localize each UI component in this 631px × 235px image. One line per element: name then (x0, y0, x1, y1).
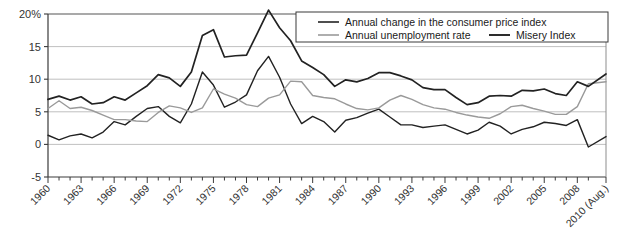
x-tick-label-2: 1966 (94, 182, 119, 207)
y-tick-label-20: 20% (19, 8, 41, 20)
x-tick-label-15: 2005 (524, 182, 549, 207)
y-tick-label-10: 10 (29, 73, 41, 85)
x-tick-label-14: 2002 (491, 182, 516, 207)
x-tick-label-12: 1996 (424, 182, 449, 207)
x-tick-label-8: 1984 (292, 182, 317, 207)
x-tick-label-0: 1960 (27, 182, 52, 207)
misery-index-chart: 20%151050-519601963196619691972197519781… (0, 0, 631, 235)
x-tick-label-10: 1990 (358, 182, 383, 207)
x-tick-label-16: 2008 (557, 182, 582, 207)
y-tick-label-0: 0 (35, 138, 41, 150)
x-tick-label-1: 1963 (60, 182, 85, 207)
y-tick-label--5: -5 (31, 171, 41, 183)
legend-label-misery-index: Misery Index (516, 29, 576, 41)
legend-label-unemployment: Annual unemployment rate (345, 29, 471, 41)
y-tick-label-5: 5 (35, 106, 41, 118)
x-tick-label-13: 1999 (457, 182, 482, 207)
x-tick-label-6: 1978 (226, 182, 251, 207)
x-tick-label-11: 1993 (391, 182, 416, 207)
x-tick-label-5: 1975 (193, 182, 218, 207)
x-tick-label-9: 1987 (325, 182, 350, 207)
y-tick-label-15: 15 (29, 41, 41, 53)
x-tick-label-4: 1972 (160, 182, 185, 207)
x-tick-label-7: 1981 (259, 182, 284, 207)
chart-canvas: 20%151050-519601963196619691972197519781… (0, 0, 631, 235)
legend-label-cpi: Annual change in the consumer price inde… (345, 16, 547, 28)
x-tick-label-3: 1969 (127, 182, 152, 207)
